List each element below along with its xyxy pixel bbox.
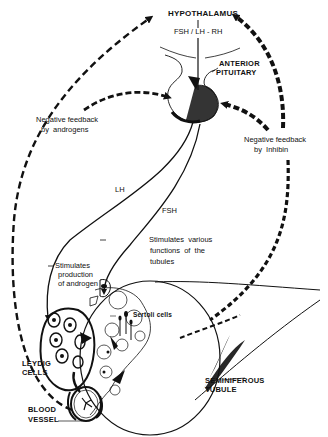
negative-feedback-androgens-label-line2: by androgens <box>41 126 89 135</box>
leydig-cells-cluster <box>41 308 95 392</box>
stimulates-tubules-label-line2: functions of the <box>150 247 205 256</box>
lh-label: LH <box>115 186 125 195</box>
stimulates-tubules-label-line3: tubules <box>150 258 174 267</box>
anterior-pituitary-label-line2: PITUITARY <box>216 69 257 78</box>
inhibin-feedback-from-tubule <box>210 160 288 320</box>
hypothalamus-label: HYPOTHALAMUS <box>168 9 238 18</box>
blood-vessel-label-line2: VESSEL <box>28 416 59 425</box>
pituitary-gland <box>165 55 218 122</box>
blood-vessel <box>58 387 102 421</box>
fsh-label: FSH <box>162 207 177 216</box>
negative-feedback-androgens-label-line1: Negative feedback <box>36 116 98 125</box>
blood-vessel-label-line1: BLOOD <box>28 406 56 415</box>
sertoli-cells-label: Sertoli cells <box>133 311 172 318</box>
seminiferous-tubule-label-line2: TUBULE <box>205 386 237 395</box>
stimulates-tubules-label-line1: Stimulates various <box>149 236 212 245</box>
inhibin-feedback-to-pituitary-arrow <box>224 104 268 130</box>
seminiferous-tubule <box>80 279 320 435</box>
fsh-pathway-line <box>104 124 200 292</box>
stimulates-androgen-label-line3: of androgen <box>58 280 98 289</box>
hormonal-regulation-diagram: HYPOTHALAMUS FSH / LH - RH ANTERIOR PITU… <box>0 0 328 437</box>
leydig-cells-label-line2: CELLS <box>22 369 48 378</box>
negative-feedback-inhibin-label-line2: by Inhibin <box>254 146 288 155</box>
androgen-feedback-to-pituitary-arrow <box>84 92 168 110</box>
androgen-feedback-to-hypothalamus-arrow <box>13 18 150 410</box>
diagram-canvas <box>0 0 328 437</box>
negative-feedback-inhibin-label-line1: Negative feedback <box>244 136 306 145</box>
fsh-lh-rh-label: FSH / LH - RH <box>174 28 222 37</box>
